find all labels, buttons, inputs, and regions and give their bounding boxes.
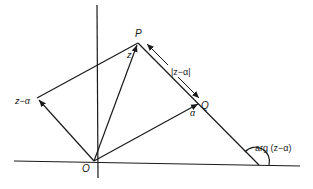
parallelogram-side (37, 43, 138, 98)
label-alpha: α (190, 108, 196, 118)
label-p: P (135, 28, 142, 39)
modulus-arrow-down (178, 77, 199, 98)
label-z: z (126, 50, 132, 60)
vector-z-minus-alpha (39, 100, 94, 161)
label-z-minus-alpha: z−α (14, 96, 31, 106)
vector-z (94, 45, 137, 161)
label-modulus: |z−α| (171, 67, 191, 77)
line-pq-extended (138, 43, 259, 165)
argand-diagram: O P Q z α z−α |z−α| arg (z−α) (0, 0, 313, 189)
label-argument: arg (z−α) (255, 143, 291, 153)
label-q: Q (201, 100, 209, 111)
label-origin: O (82, 163, 90, 174)
vector-alpha (94, 104, 198, 161)
